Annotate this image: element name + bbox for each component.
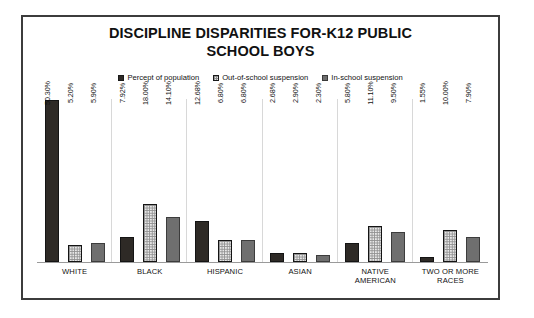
bar-column: 50.30% (45, 95, 59, 262)
bar-value-label: 6.80% (216, 83, 225, 103)
bar-value-label: 11.10% (366, 81, 375, 104)
bar-column: 18.00% (143, 95, 157, 262)
category-label: TWO OR MORERACES (413, 267, 488, 286)
bars-area: 50.30%5.20%5.90%7.92%18.00%14.10%12.68%6… (37, 95, 488, 262)
bar-value-label: 1.55% (418, 83, 427, 103)
chart-container: DISCIPLINE DISPARITIES FOR-K12 PUBLIC SC… (21, 15, 500, 300)
bar-column: 5.80% (345, 95, 359, 262)
category-label: BLACK (112, 267, 187, 286)
bar-column: 9.50% (391, 95, 405, 262)
chart-title-line-2: SCHOOL BOYS (23, 43, 498, 61)
bar[interactable]: 7.92% (120, 237, 134, 262)
x-axis-line (37, 262, 488, 263)
bar-column: 11.10% (368, 95, 382, 262)
category-label-line: ASIAN (263, 267, 338, 276)
chart-title: DISCIPLINE DISPARITIES FOR-K12 PUBLIC SC… (23, 25, 498, 60)
category-label-line: RACES (413, 276, 488, 285)
bar-value-label: 6.80% (239, 83, 248, 103)
bar[interactable]: 2.68% (270, 253, 284, 262)
category-label-line: TWO OR MORE (413, 267, 488, 276)
bar[interactable]: 5.20% (68, 245, 82, 262)
bar-value-label: 12.68% (193, 81, 202, 105)
bar[interactable]: 11.10% (368, 226, 382, 262)
bar-value-label: 7.92% (118, 83, 127, 103)
bar-column: 2.30% (316, 95, 330, 262)
chart-legend: Percept of population Out-of-school susp… (23, 73, 498, 82)
legend-swatch-icon-series-1 (118, 75, 124, 81)
category-label-line: WHITE (37, 267, 112, 276)
bar-value-label: 5.80% (343, 83, 352, 103)
bar-value-label: 14.10% (164, 81, 173, 105)
bar-column: 7.92% (120, 95, 134, 262)
bar-column: 10.00% (443, 95, 457, 262)
bar[interactable]: 6.80% (241, 240, 255, 262)
bar[interactable]: 12.68% (195, 221, 209, 262)
category-label: ASIAN (263, 267, 338, 286)
bar[interactable]: 50.30% (45, 100, 59, 262)
bar-group: 2.68%2.90%2.30% (263, 95, 338, 262)
bar-group: 7.92%18.00%14.10% (112, 95, 187, 262)
bar[interactable]: 10.00% (443, 230, 457, 262)
bar-value-label: 18.00% (141, 81, 150, 105)
category-label-line: BLACK (112, 267, 187, 276)
category-label: WHITE (37, 267, 112, 286)
bar-column: 2.68% (270, 95, 284, 262)
bar[interactable]: 5.90% (91, 243, 105, 262)
bar-group: 12.68%6.80%6.80% (187, 95, 262, 262)
bar-value-label: 10.00% (441, 81, 450, 105)
bar-column: 2.90% (293, 95, 307, 262)
legend-swatch-icon-series-3 (322, 75, 328, 81)
bar-column: 5.20% (68, 95, 82, 262)
bar-column: 6.80% (241, 95, 255, 262)
bar[interactable]: 6.80% (218, 240, 232, 262)
legend-item-in-school-suspension[interactable]: In-school suspension (322, 73, 402, 82)
bar-value-label: 7.90% (464, 83, 473, 103)
bar-group: 50.30%5.20%5.90% (37, 95, 112, 262)
bar[interactable]: 5.80% (345, 243, 359, 262)
bar-value-label: 2.30% (314, 83, 323, 103)
bar-group: 5.80%11.10%9.50% (338, 95, 413, 262)
legend-item-out-of-school-suspension[interactable]: Out-of-school suspension (213, 73, 308, 82)
bar-column: 1.55% (420, 95, 434, 262)
bar-column: 6.80% (218, 95, 232, 262)
bar-column: 14.10% (166, 95, 180, 262)
bar-value-label: 5.20% (66, 83, 75, 103)
bar[interactable]: 9.50% (391, 232, 405, 263)
category-label-line: AMERICAN (338, 276, 413, 285)
category-label: HISPANIC (187, 267, 262, 286)
bar-column: 7.90% (466, 95, 480, 262)
bar-value-label: 5.90% (89, 83, 98, 103)
bar[interactable]: 14.10% (166, 217, 180, 262)
chart-title-line-1: DISCIPLINE DISPARITIES FOR-K12 PUBLIC (23, 25, 498, 43)
bar-value-label: 9.50% (389, 83, 398, 103)
category-label: NATIVEAMERICAN (338, 267, 413, 286)
bar[interactable]: 2.90% (293, 253, 307, 262)
bar-value-label: 2.68% (268, 83, 277, 103)
x-axis-category-labels: WHITEBLACKHISPANICASIANNATIVEAMERICANTWO… (37, 267, 488, 286)
legend-item-percept-of-population[interactable]: Percept of population (118, 73, 199, 82)
bar-column: 5.90% (91, 95, 105, 262)
legend-swatch-icon-series-2 (213, 75, 219, 81)
bar[interactable]: 2.30% (316, 255, 330, 262)
bar[interactable]: 7.90% (466, 237, 480, 262)
legend-label-series-2: Out-of-school suspension (222, 73, 308, 82)
plot-region: 50.30%5.20%5.90%7.92%18.00%14.10%12.68%6… (37, 95, 488, 290)
bar-value-label: 50.30% (43, 81, 52, 105)
bar[interactable]: 18.00% (143, 204, 157, 262)
category-label-line: NATIVE (338, 267, 413, 276)
bar-value-label: 2.90% (291, 83, 300, 103)
category-label-line: HISPANIC (187, 267, 262, 276)
bar-column: 12.68% (195, 95, 209, 262)
bar-group: 1.55%10.00%7.90% (413, 95, 488, 262)
